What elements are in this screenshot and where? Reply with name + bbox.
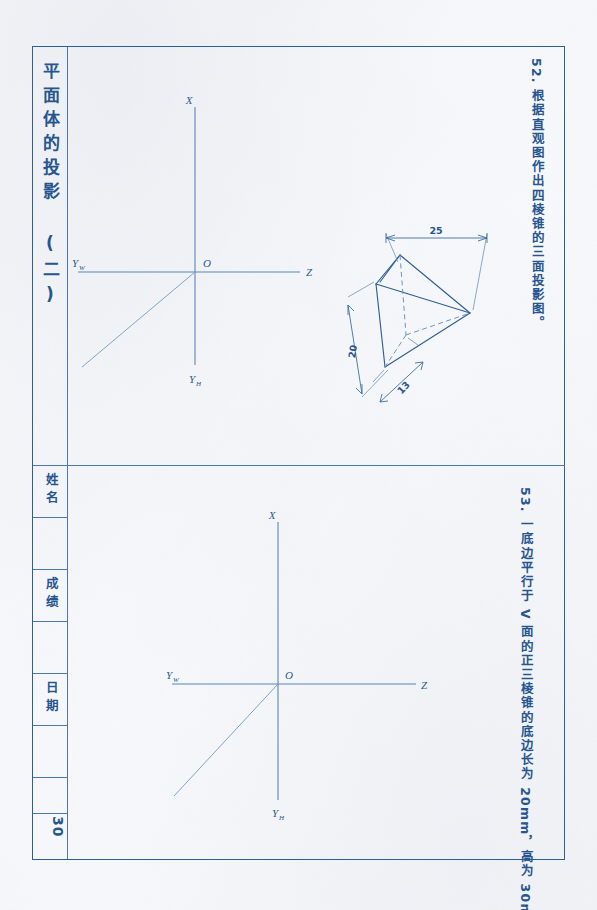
title-block-date-cell: 日期 bbox=[36, 674, 66, 724]
title-block-sep-2 bbox=[33, 517, 67, 518]
title-block-date-label: 日期 bbox=[42, 681, 61, 717]
title-block-sep-8 bbox=[33, 813, 67, 814]
drawing-frame bbox=[32, 46, 565, 860]
title-block-sep-4 bbox=[33, 621, 67, 622]
title-block-grade-cell: 成绩 bbox=[36, 570, 66, 620]
title-block-grade-label: 成绩 bbox=[42, 577, 61, 613]
title-block-name-label: 姓名 bbox=[42, 473, 61, 509]
title-block-sep-7 bbox=[33, 777, 67, 778]
page-number: 30 bbox=[36, 816, 66, 837]
title-block-name-cell: 姓名 bbox=[36, 466, 66, 516]
title-block-sep-6 bbox=[33, 725, 67, 726]
sheet-title: 平面体的投影 (二) bbox=[38, 62, 63, 311]
frame-problem-divider bbox=[67, 465, 565, 466]
problem-52-prompt: 52. 根据直观图作出四棱锥的三面投影图。 bbox=[527, 58, 546, 358]
frame-left-column-divider bbox=[67, 47, 68, 859]
problem-53-prompt: 53. 一底边平行于 V 面的正三棱锥的底边长为 20mm，高为 30mm，底面… bbox=[516, 487, 535, 797]
